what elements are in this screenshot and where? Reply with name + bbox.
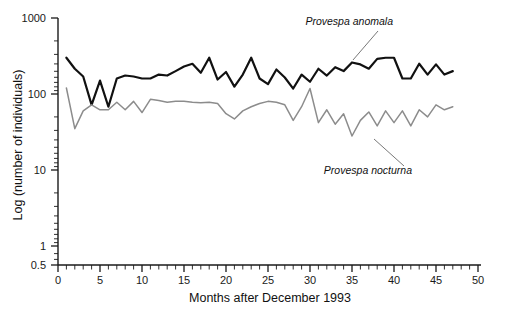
provespa-anomala-label: Provespa anomala <box>305 15 393 27</box>
x-tick-label-40: 40 <box>388 274 400 286</box>
x-tick-label-45: 45 <box>430 274 442 286</box>
x-axis-title: Months after December 1993 <box>189 291 351 305</box>
chart-figure: 1000 100 10 1 0.5 <box>0 0 518 313</box>
y-tick-label-0-5: 0.5 <box>31 259 46 271</box>
y-axis-title: Log (number of individuals) <box>11 70 25 221</box>
y-tick-label-100: 100 <box>28 88 46 100</box>
y-tick-label-1000: 1000 <box>22 12 46 24</box>
x-tick-label-30: 30 <box>304 274 316 286</box>
provespa-nocturna-label: Provespa nocturna <box>324 164 412 176</box>
x-tick-label-5: 5 <box>97 274 103 286</box>
chart-background <box>0 0 518 313</box>
y-tick-label-10: 10 <box>34 164 46 176</box>
x-tick-label-50: 50 <box>472 274 484 286</box>
y-tick-label-1: 1 <box>40 240 46 252</box>
x-tick-label-0: 0 <box>55 274 61 286</box>
log-line-chart: 1000 100 10 1 0.5 <box>0 0 518 313</box>
x-tick-label-15: 15 <box>178 274 190 286</box>
x-tick-label-35: 35 <box>346 274 358 286</box>
x-tick-label-10: 10 <box>136 274 148 286</box>
x-tick-label-20: 20 <box>220 274 232 286</box>
x-tick-label-25: 25 <box>262 274 274 286</box>
